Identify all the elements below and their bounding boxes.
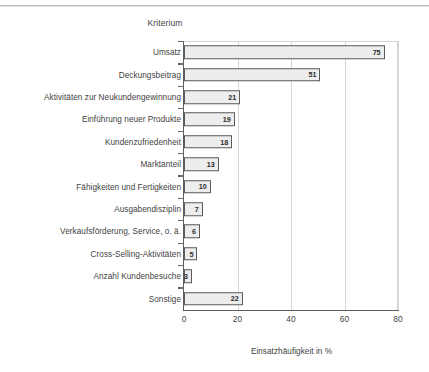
bar-row: Einführung neuer Produkte19 [0, 108, 429, 130]
x-axis-line [184, 310, 399, 311]
bar: 22 [184, 292, 243, 306]
bar-value-label: 22 [231, 295, 239, 302]
bar-value-label: 6 [192, 228, 196, 235]
bar: 6 [184, 225, 200, 239]
bar: 19 [184, 113, 235, 127]
chart-title: Kriterium [0, 18, 330, 28]
bar-row: Verkaufsförderung, Service, o. ä.6 [0, 220, 429, 242]
category-label: Kundenzufriedenheit [105, 137, 181, 146]
y-axis-tick [178, 63, 184, 64]
category-label: Fähigkeiten und Fertigkeiten [76, 182, 181, 191]
bar-rect: 7 [184, 202, 203, 216]
y-axis-tick [178, 175, 184, 176]
bar-rect: 13 [184, 157, 219, 171]
bar-value-label: 3 [184, 273, 188, 280]
y-axis-tick [178, 153, 184, 154]
y-axis-tick [178, 108, 184, 109]
bar-value-label: 13 [207, 161, 215, 168]
category-label: Anzahl Kundenbesuche [94, 272, 182, 281]
category-label: Marktanteil [140, 160, 181, 169]
top-divider-soft [0, 6, 429, 7]
x-axis-tick-labels: 020406080 [0, 314, 429, 328]
chart-figure: Kriterium Umsatz75Deckungsbeitrag51Aktiv… [0, 0, 429, 372]
bar: 13 [184, 157, 219, 171]
y-axis-tick [178, 198, 184, 199]
bar-row: Sonstige22 [0, 287, 429, 309]
bar: 51 [184, 68, 320, 82]
bar-row: Fähigkeiten und Fertigkeiten10 [0, 175, 429, 197]
bar-value-label: 51 [308, 71, 316, 78]
y-axis-tick [178, 265, 184, 266]
y-axis-tick [178, 243, 184, 244]
bar-value-label: 7 [195, 205, 199, 212]
bar-rect: 51 [184, 68, 320, 82]
bar-row: Cross-Selling-Aktivitäten5 [0, 243, 429, 265]
bar: 3 [184, 270, 192, 284]
category-label: Einführung neuer Produkte [82, 115, 181, 124]
x-tick-0: 0 [182, 314, 187, 324]
category-label: Verkaufsförderung, Service, o. ä. [60, 227, 181, 236]
bar: 18 [184, 135, 232, 149]
bar: 5 [184, 247, 197, 261]
bar-row: Aktivitäten zur Neukundengewinnung21 [0, 86, 429, 108]
x-axis-title: Einsatzhäufigkeit in % [184, 347, 399, 356]
bar-rect: 3 [184, 270, 192, 284]
x-tick-20: 20 [233, 314, 242, 324]
bar-rect: 21 [184, 90, 240, 104]
y-axis-tick [178, 41, 184, 42]
bar: 21 [184, 90, 240, 104]
category-label: Umsatz [153, 48, 181, 57]
bar-row: Anzahl Kundenbesuche3 [0, 265, 429, 287]
bar-value-label: 75 [373, 49, 381, 56]
x-tick-60: 60 [340, 314, 349, 324]
category-label: Ausgabendisziplin [114, 205, 181, 214]
bar-rect: 6 [184, 225, 200, 239]
bar-rect: 22 [184, 292, 243, 306]
bar-row: Ausgabendisziplin7 [0, 198, 429, 220]
x-tick-40: 40 [286, 314, 295, 324]
y-axis-tick [178, 86, 184, 87]
bar-value-label: 10 [199, 183, 207, 190]
bar-rect: 75 [184, 45, 385, 59]
bar-value-label: 5 [189, 250, 193, 257]
category-label: Deckungsbeitrag [119, 70, 181, 79]
y-axis-tick [178, 131, 184, 132]
x-tick-80: 80 [393, 314, 402, 324]
bar-row: Kundenzufriedenheit18 [0, 131, 429, 153]
bar: 75 [184, 45, 385, 59]
bar-value-label: 18 [220, 138, 228, 145]
bar-value-label: 21 [228, 93, 236, 100]
bar-rect: 18 [184, 135, 232, 149]
bar-value-label: 19 [223, 116, 231, 123]
category-label: Aktivitäten zur Neukundengewinnung [44, 93, 181, 102]
bar-row: Deckungsbeitrag51 [0, 63, 429, 85]
bar-rect: 19 [184, 113, 235, 127]
bar-rect: 10 [184, 180, 211, 194]
bar: 7 [184, 202, 203, 216]
bar: 10 [184, 180, 211, 194]
category-label: Sonstige [149, 294, 181, 303]
y-axis-tick [178, 220, 184, 221]
category-label: Cross-Selling-Aktivitäten [91, 249, 181, 258]
bar-rows: Umsatz75Deckungsbeitrag51Aktivitäten zur… [0, 41, 429, 310]
y-axis-tick [178, 287, 184, 288]
bar-row: Umsatz75 [0, 41, 429, 63]
bar-row: Marktanteil13 [0, 153, 429, 175]
bar-rect: 5 [184, 247, 197, 261]
